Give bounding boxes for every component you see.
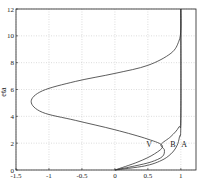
x-tick-label: -0.5 <box>76 172 88 180</box>
x-tick-label: 0.5 <box>143 172 152 180</box>
x-tick-label: 1 <box>179 172 183 180</box>
grid-lines <box>16 9 196 170</box>
x-tick-label: -1 <box>46 172 52 180</box>
chart: -1.5-1-0.500.51024681012 VBA eta <box>0 0 203 181</box>
axis-ticks: -1.5-1-0.500.51024681012 <box>7 6 183 181</box>
curve-label: A <box>181 140 187 149</box>
y-tick-label: 4 <box>11 113 15 121</box>
y-tick-label: 0 <box>11 167 15 175</box>
x-tick-label: 0 <box>113 172 117 180</box>
annotations: VBA <box>146 140 187 149</box>
curve-label: B <box>170 140 175 149</box>
y-tick-label: 10 <box>7 32 15 40</box>
y-tick-label: 8 <box>11 59 15 67</box>
y-axis-label: eta <box>0 87 8 97</box>
y-tick-label: 6 <box>11 86 15 94</box>
curve-label: V <box>146 140 152 149</box>
y-tick-label: 2 <box>11 140 15 148</box>
y-tick-label: 12 <box>7 6 15 14</box>
